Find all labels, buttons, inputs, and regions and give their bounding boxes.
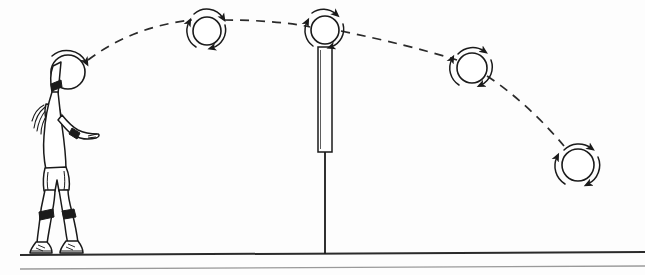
scene-drawing: [0, 0, 645, 275]
trajectory-segment-4: [487, 76, 564, 146]
ball-4-circle: [457, 53, 487, 83]
ball-landing: [555, 144, 600, 184]
illustration-canvas: Volleyball serve trajectory with topspin…: [0, 0, 645, 275]
trajectory-segment-3: [341, 31, 457, 60]
ball-over-net: [305, 9, 344, 47]
net-band: [318, 47, 332, 152]
lower-border-line: [20, 266, 645, 269]
ball-5-circle: [562, 149, 594, 181]
ball-ascending: [187, 9, 226, 48]
trajectory-segment-1: [88, 20, 192, 60]
court-floor-line: [20, 252, 645, 255]
volleyball-net: [318, 47, 332, 254]
ball-3-circle: [311, 16, 339, 44]
ball-2-circle: [193, 17, 221, 45]
ball-3-spin-arc-top: [312, 9, 336, 14]
player-knee-pad-right: [62, 209, 76, 219]
trajectory-segment-2: [224, 20, 310, 27]
ground-lines: [20, 252, 645, 269]
ball-descending: [450, 48, 492, 85]
volleyball-player: [30, 62, 99, 253]
